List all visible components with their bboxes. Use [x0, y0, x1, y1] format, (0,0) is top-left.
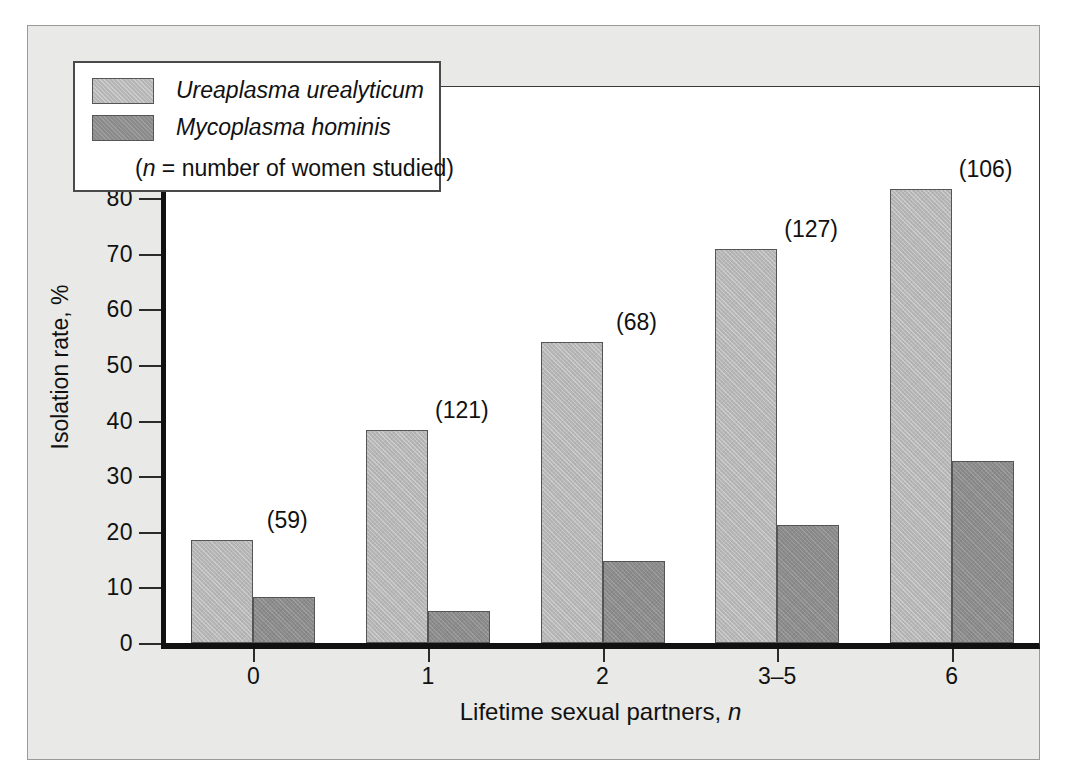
- y-axis-tick: [139, 365, 161, 367]
- y-axis-tick-label: 50: [106, 352, 133, 379]
- bar-ureaplasma-0: [191, 540, 253, 643]
- x-axis-title-italic: n: [728, 698, 741, 725]
- bar-mycoplasma-0: [253, 597, 315, 643]
- bar-mycoplasma-1: [428, 611, 490, 643]
- legend: Ureaplasma urealyticum Mycoplasma homini…: [73, 61, 441, 192]
- bar-mycoplasma-2: [603, 561, 665, 643]
- y-axis-tick: [139, 476, 161, 478]
- bar-annotation-0: (59): [267, 507, 308, 534]
- legend-note: (n = number of women studied): [135, 155, 454, 182]
- legend-note-italic: n: [143, 155, 156, 181]
- x-axis-tick: [952, 649, 954, 662]
- y-axis-tick-label: 10: [106, 574, 133, 601]
- x-axis-tick: [777, 649, 779, 662]
- figure-root: 0102030405060708090100Isolation rate, % …: [0, 0, 1065, 782]
- bar-ureaplasma-3: [715, 249, 777, 643]
- y-axis-tick: [139, 254, 161, 256]
- bar-annotation-4: (106): [959, 156, 1013, 183]
- y-axis-tick: [139, 309, 161, 311]
- y-axis-tick: [139, 198, 161, 200]
- bar-annotation-2: (68): [616, 309, 657, 336]
- y-axis-tick-label: 0: [120, 630, 133, 657]
- legend-note-open: (: [135, 155, 143, 181]
- y-axis-tick-label: 30: [106, 463, 133, 490]
- x-axis-tick-label: 3–5: [758, 663, 796, 690]
- legend-swatch-ureaplasma: [92, 78, 154, 104]
- y-axis-tick-label: 60: [106, 296, 133, 323]
- bar-ureaplasma-1: [366, 430, 428, 643]
- y-axis-tick: [139, 532, 161, 534]
- legend-entry-mycoplasma: Mycoplasma hominis: [92, 114, 391, 141]
- x-axis-tick: [253, 649, 255, 662]
- y-axis-tick: [139, 421, 161, 423]
- y-axis-tick: [139, 587, 161, 589]
- y-axis-tick-label: 70: [106, 240, 133, 267]
- y-axis-tick-label: 40: [106, 407, 133, 434]
- x-axis-title: Lifetime sexual partners, n: [161, 698, 1040, 726]
- bar-ureaplasma-4: [890, 189, 952, 643]
- x-axis-title-text: Lifetime sexual partners,: [460, 698, 728, 725]
- y-axis-title: Isolation rate, %: [47, 217, 74, 517]
- bar-annotation-3: (127): [784, 216, 838, 243]
- legend-swatch-mycoplasma: [92, 115, 154, 141]
- bar-annotation-1: (121): [435, 397, 489, 424]
- bar-ureaplasma-2: [541, 342, 603, 643]
- x-axis-tick-label: 0: [247, 663, 260, 690]
- legend-label-mycoplasma: Mycoplasma hominis: [176, 114, 391, 141]
- y-axis-tick: [139, 643, 161, 645]
- x-axis-tick: [428, 649, 430, 662]
- legend-entry-ureaplasma: Ureaplasma urealyticum: [92, 77, 424, 104]
- x-axis-tick-label: 1: [421, 663, 434, 690]
- x-axis-tick-label: 6: [945, 663, 958, 690]
- x-axis-tick-label: 2: [596, 663, 609, 690]
- x-axis-tick: [603, 649, 605, 662]
- legend-label-ureaplasma: Ureaplasma urealyticum: [176, 77, 424, 104]
- legend-note-rest: = number of women studied): [155, 155, 454, 181]
- y-axis-tick-label: 20: [106, 518, 133, 545]
- bar-mycoplasma-4: [952, 461, 1014, 643]
- bar-mycoplasma-3: [777, 525, 839, 643]
- figure-panel: 0102030405060708090100Isolation rate, % …: [27, 25, 1040, 760]
